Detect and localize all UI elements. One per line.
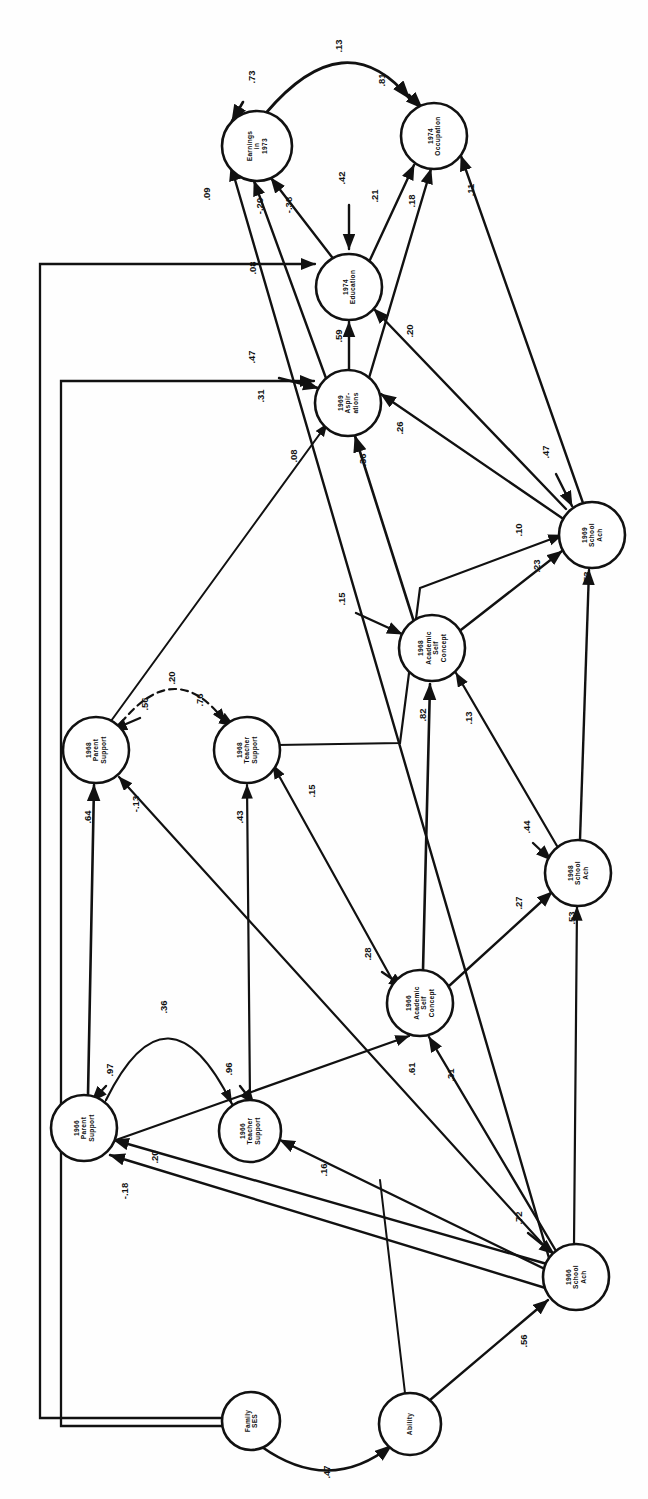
node-par66[interactable]: 1966ParentSupport — [51, 1095, 117, 1161]
path-coefficient-p-ach69-res: .47 — [540, 445, 551, 458]
node-label: Ability — [406, 1413, 414, 1435]
edge-ses-to-asp69 — [61, 381, 314, 1426]
edge-par68-to-asp69 — [111, 424, 327, 721]
node-asc68[interactable]: 1968AcademicSelfConcept — [399, 615, 465, 681]
path-coefficient-p-ach69-edu: .20 — [404, 324, 415, 337]
path-coefficient-p-abil-ach66: .56 — [518, 1334, 529, 1347]
node-ach66[interactable]: 1966SchoolAch — [543, 1244, 609, 1310]
path-coefficient-p-asc68-ach69: .23 — [531, 559, 542, 572]
edge-asc66-to-ach68 — [449, 892, 552, 986]
node-asc66[interactable]: 1966AcademicSelfConcept — [387, 970, 453, 1036]
edge-ach66-to-par66-a — [114, 1140, 547, 1264]
edge-cov-par68-tea68 — [121, 689, 226, 723]
node-ses[interactable]: FamilySES — [222, 1392, 280, 1450]
path-coefficient-p-tea68-res: .76 — [194, 693, 205, 706]
path-coefficient-p-par66x-asc66: .31 — [445, 1068, 456, 1082]
edge-ach69-to-occ74 — [461, 156, 583, 503]
path-coefficient-p-asc66-ach68: .27 — [513, 896, 524, 909]
path-coefficient-p-ach66-res: .72 — [513, 1211, 524, 1224]
edge-ach68-to-asc68 — [456, 673, 557, 846]
path-coefficient-p-ses-abil: .47 — [321, 1465, 332, 1478]
path-coefficient-p-asc66-tea68: .15 — [306, 784, 317, 798]
path-diagram-canvas: Earningsin19731974Occupation1974Educatio… — [0, 0, 648, 1499]
edge-ach68-to-ach69 — [580, 570, 589, 840]
path-coefficient-p-ach66-asc66: .61 — [406, 1062, 417, 1076]
edge-ach66-to-tea66 — [280, 1140, 551, 1272]
edge-edu74-to-earn73 — [271, 178, 335, 261]
path-coefficient-p-asp69-res: .47 — [246, 350, 257, 363]
edge-asc66-to-tea68 — [273, 765, 394, 983]
path-coefficient-p-tea68-ach69: .10 — [513, 523, 524, 536]
path-coefficient-p-par66-par68: .64 — [82, 810, 93, 824]
edge-tea66-to-tea68 — [247, 785, 250, 1100]
path-coefficient-p-asp-earn: -.20 — [254, 198, 265, 214]
path-coefficient-p-ses-asp: .31 — [255, 389, 266, 403]
path-coefficient-p-edu-earn: -.38 — [283, 197, 294, 213]
node-ach68[interactable]: 1968SchoolAch — [545, 840, 611, 906]
edge-ach66-to-par66-b — [110, 1155, 552, 1290]
path-coefficient-p-ses-edu: .08 — [247, 261, 258, 274]
path-coefficient-p-ach66-par66: -.18 — [119, 1183, 130, 1199]
path-coefficient-p-par66-res: .97 — [104, 1063, 115, 1076]
path-coefficient-p-edu74-res: .42 — [336, 171, 347, 184]
path-coefficient-p-asc68-res: .15 — [336, 592, 347, 606]
path-coefficient-p-ach66-tea66: .16 — [318, 1163, 329, 1176]
node-label: 1969Aspir-ations — [337, 392, 359, 413]
path-coefficient-p-tea66-res: .96 — [223, 1062, 234, 1075]
node-edu74[interactable]: 1974Education — [316, 254, 382, 320]
edge-cov-earn73-occ74 — [266, 63, 410, 113]
path-coefficient-p-earn73-res: .73 — [246, 70, 257, 83]
path-coefficient-p-ach68-ach69: .53 — [581, 571, 592, 584]
edge-cov-par66-tea66 — [106, 1038, 232, 1104]
node-earn73[interactable]: Earningsin1973 — [222, 111, 292, 181]
path-coefficient-p-ach66-earn: .09 — [201, 187, 212, 200]
path-coefficient-p-tea66-tea68: .43 — [234, 810, 245, 823]
node-tea66[interactable]: 1966TeacherSupport — [219, 1100, 281, 1162]
edge-abil-riser — [380, 1180, 405, 1393]
path-coefficient-p-asp-occ: .18 — [406, 194, 417, 207]
edge-abil-to-ach66 — [430, 1300, 548, 1400]
path-coefficient-p-asp-edu: .59 — [333, 329, 344, 342]
path-coefficient-p-par68-asp: .08 — [288, 449, 299, 462]
path-coefficient-p-ach68-asc68: .13 — [463, 711, 474, 724]
node-occ74[interactable]: 1974Occupation — [401, 103, 467, 169]
path-coefficient-p-occ74-res: .81 — [376, 73, 387, 87]
path-coefficient-p-par68-res: .56 — [139, 697, 150, 710]
edge-residual-asp69 — [279, 378, 318, 388]
edge-par66-to-par68 — [88, 785, 94, 1095]
path-coefficient-p-ach69-occ: .11 — [465, 183, 476, 196]
path-coefficient-p-ach66-par68: -.13 — [130, 796, 141, 812]
edge-ach66-to-ach68 — [574, 907, 577, 1244]
path-coefficient-p-edu-occ: .21 — [369, 189, 380, 203]
edge-ach66-to-par68 — [119, 777, 548, 1250]
path-diagram-svg: Earningsin19731974Occupation1974Educatio… — [0, 0, 648, 1499]
node-par68[interactable]: 1968ParentSupport — [63, 717, 129, 783]
node-tea68[interactable]: 1968TeacherSupport — [214, 717, 280, 783]
path-coefficient-p-ach69-asp: .26 — [394, 421, 405, 434]
path-coefficient-p-ach68-res: .44 — [521, 820, 532, 834]
path-coefficient-p-asc66-res: .28 — [362, 947, 373, 960]
path-coefficient-p-ach66-par66b: .20 — [149, 1150, 160, 1163]
node-asp69[interactable]: 1969Aspir-ations — [315, 370, 381, 436]
edge-asc68-to-ach69 — [457, 551, 562, 633]
edge-ach69-to-asp69 — [381, 394, 562, 518]
path-coefficient-p-asc68-asp: .36 — [357, 453, 368, 466]
node-abil[interactable]: Ability — [379, 1393, 441, 1455]
path-coefficient-p-par68-tea68: .20 — [166, 671, 177, 684]
node-ach69[interactable]: 1969SchoolAch — [559, 502, 625, 568]
path-coefficient-p-asc66-asc68: .82 — [417, 708, 428, 721]
path-coefficient-p-ach66-ach68: .53 — [566, 911, 577, 924]
edge-ach66-to-earn73 — [231, 166, 549, 1258]
path-coefficient-p-par66-tea66: .36 — [158, 1000, 169, 1013]
node-layer: Earningsin19731974Occupation1974Educatio… — [51, 103, 625, 1455]
path-coefficient-p-earn-occ: .13 — [333, 39, 344, 52]
